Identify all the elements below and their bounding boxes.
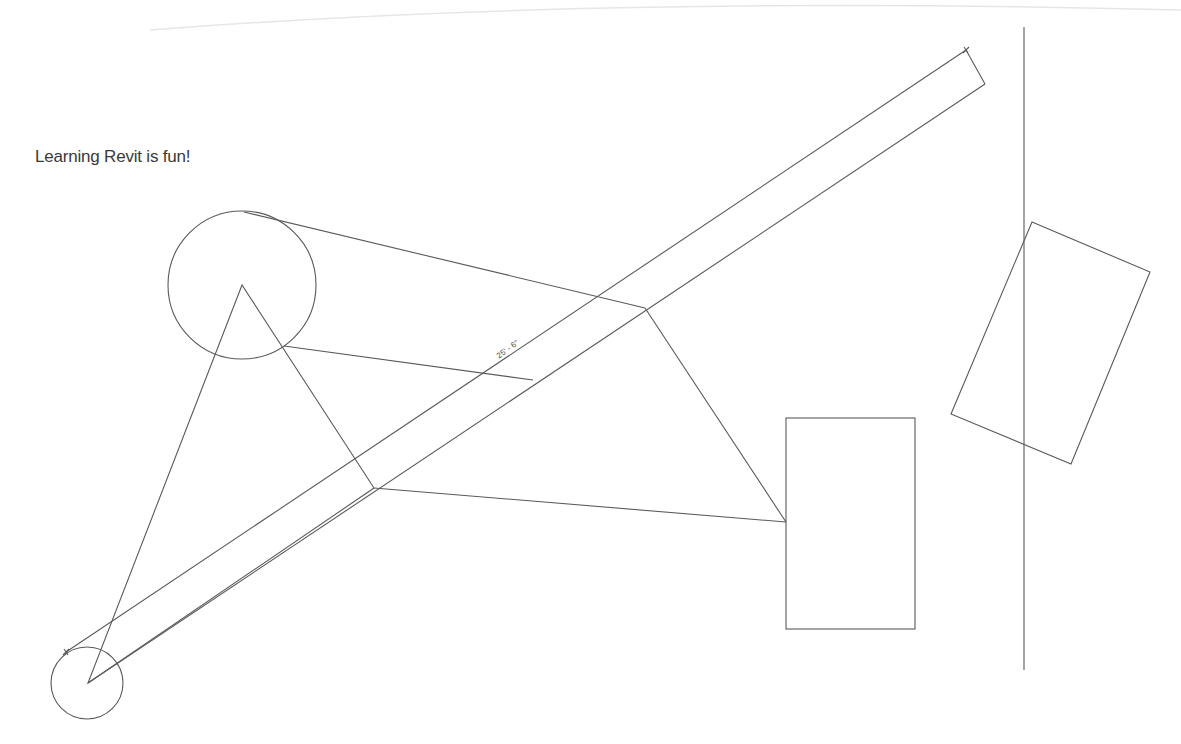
faint-arc-line [150, 6, 1181, 31]
drawing-view[interactable] [0, 0, 1181, 744]
triangle-shape[interactable] [88, 285, 374, 683]
small-circle[interactable] [51, 647, 123, 719]
wall-strip-end-cap[interactable] [966, 50, 985, 84]
tangent-line-upper[interactable] [244, 212, 645, 308]
text-note-label[interactable]: Learning Revit is fun! [35, 147, 190, 167]
rotated-rectangle-shape[interactable] [951, 222, 1150, 464]
rectangle-shape[interactable] [786, 418, 915, 629]
drawing-canvas[interactable]: Learning Revit is fun! 25' - 6" [0, 0, 1181, 744]
wall-strip-bottom-line[interactable] [88, 84, 985, 683]
quad-edge-bottom[interactable] [374, 488, 786, 522]
wall-strip-top-line[interactable] [66, 50, 966, 652]
quad-edge-right[interactable] [645, 308, 786, 522]
